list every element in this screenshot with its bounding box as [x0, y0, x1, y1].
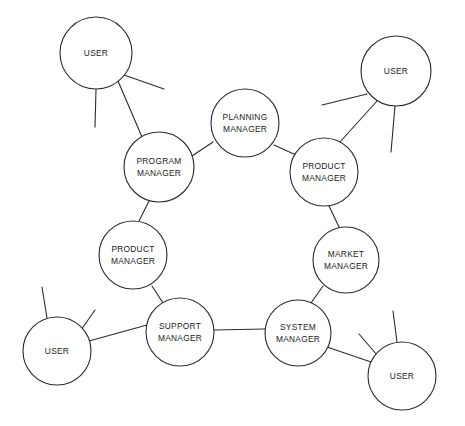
edge-support-manager-to-product-manager-left [152, 286, 163, 303]
node-label-market-manager-line2: MANAGER [324, 261, 368, 271]
edge-user-top-left-to-program-manager [118, 81, 142, 137]
edge-program-manager-to-planning-manager [192, 142, 213, 156]
node-label-product-manager-right-line1: PRODUCT [302, 161, 345, 171]
node-circle-product-manager-left[interactable] [99, 221, 167, 289]
node-label-market-manager-line1: MARKET [328, 249, 364, 259]
connector-stub-user-bottom-left [42, 287, 47, 318]
edge-user-top-right-to-product-manager-right [340, 101, 377, 142]
node-planning-manager[interactable]: PLANNINGMANAGER [211, 89, 279, 157]
node-label-user-bottom-left: USER [45, 346, 69, 356]
edge-market-manager-to-system-manager [311, 286, 323, 303]
edge-user-bottom-left-to-support-manager [89, 325, 147, 341]
node-label-program-manager-line1: PROGRAM [136, 156, 181, 166]
network-diagram: USERUSERUSERUSERPLANNINGMANAGERPROGRAMMA… [0, 0, 465, 426]
node-label-support-manager-line2: MANAGER [158, 333, 202, 343]
node-circle-support-manager[interactable] [146, 298, 214, 366]
connector-stub-user-top-left [124, 75, 164, 89]
connector-stub-user-top-right [322, 94, 367, 105]
edge-user-bottom-right-to-system-manager [327, 347, 371, 362]
node-label-support-manager-line1: SUPPORT [159, 321, 201, 331]
node-label-user-top-right: USER [384, 66, 408, 76]
node-user-bottom-left[interactable]: USER [23, 317, 91, 385]
node-label-system-manager-line1: SYSTEM [280, 322, 316, 332]
connector-stub-user-top-right [391, 106, 395, 152]
node-program-manager[interactable]: PROGRAMMANAGER [124, 132, 194, 202]
node-label-product-manager-right-line2: MANAGER [302, 173, 346, 183]
node-product-manager-left[interactable]: PRODUCTMANAGER [99, 221, 167, 289]
node-circle-product-manager-right[interactable] [290, 138, 358, 206]
node-label-program-manager-line2: MANAGER [137, 168, 181, 178]
node-label-product-manager-left-line2: MANAGER [111, 256, 155, 266]
node-circle-program-manager[interactable] [124, 132, 194, 202]
node-label-user-bottom-right: USER [390, 371, 414, 381]
node-user-top-left[interactable]: USER [60, 17, 132, 89]
connector-stub-user-bottom-left [81, 310, 95, 330]
node-system-manager[interactable]: SYSTEMMANAGER [265, 300, 331, 366]
node-support-manager[interactable]: SUPPORTMANAGER [146, 298, 214, 366]
node-user-top-right[interactable]: USER [361, 36, 431, 106]
edge-product-manager-left-to-program-manager [139, 201, 149, 221]
node-label-system-manager-line2: MANAGER [276, 334, 320, 344]
edge-product-manager-right-to-market-manager [329, 206, 339, 227]
node-circle-market-manager[interactable] [313, 227, 379, 293]
diagram-canvas: USERUSERUSERUSERPLANNINGMANAGERPROGRAMMA… [0, 0, 465, 426]
connector-stub-user-bottom-right [359, 334, 377, 355]
node-user-bottom-right[interactable]: USER [368, 342, 436, 410]
edge-planning-manager-to-product-manager-right [274, 145, 296, 155]
node-circle-planning-manager[interactable] [211, 89, 279, 157]
node-label-user-top-left: USER [84, 48, 108, 58]
node-label-product-manager-left-line1: PRODUCT [111, 244, 154, 254]
connector-stub-user-top-left [95, 89, 96, 127]
connector-stub-user-bottom-right [393, 311, 397, 342]
node-label-planning-manager-line2: MANAGER [223, 124, 267, 134]
node-circle-system-manager[interactable] [265, 300, 331, 366]
node-product-manager-right[interactable]: PRODUCTMANAGER [290, 138, 358, 206]
node-label-planning-manager-line1: PLANNING [223, 112, 268, 122]
node-market-manager[interactable]: MARKETMANAGER [313, 227, 379, 293]
edge-system-manager-to-support-manager [214, 329, 265, 330]
